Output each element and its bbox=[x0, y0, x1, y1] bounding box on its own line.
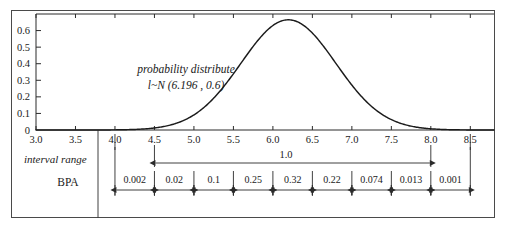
bpa-dimension-group bbox=[115, 185, 470, 195]
row-label-interval-range: interval range bbox=[24, 153, 87, 165]
x-tick-label: 7.0 bbox=[345, 134, 358, 145]
overall-interval-label: 1.0 bbox=[279, 149, 292, 160]
interval-table-group: interval range BPA 1.0 0.0020.020.10.250… bbox=[24, 130, 470, 218]
bpa-value-label: 0.002 bbox=[123, 174, 146, 185]
bpa-value-label: 0.074 bbox=[360, 174, 383, 185]
y-axis-group: 00.10.20.30.40.50.6 bbox=[17, 14, 41, 136]
x-tick-label: 8.0 bbox=[424, 134, 437, 145]
distribution-caption-line2: l~N (6.196 , 0.6) bbox=[148, 79, 225, 92]
y-tick-label: 0.1 bbox=[17, 108, 30, 119]
y-tick-label: 0.3 bbox=[17, 75, 30, 86]
segment-separator-lines bbox=[115, 134, 470, 196]
bpa-value-label: 0.013 bbox=[400, 174, 423, 185]
distribution-caption-line1: probability distribute bbox=[136, 63, 235, 76]
probability-distribution-figure: 00.10.20.30.40.50.6 3.03.54.04.55.05.56.… bbox=[0, 0, 520, 228]
x-tick-label: 6.0 bbox=[266, 134, 279, 145]
x-tick-label: 5.0 bbox=[187, 134, 200, 145]
normal-distribution-curve bbox=[36, 20, 494, 130]
x-tick-label: 6.5 bbox=[306, 134, 319, 145]
bpa-value-label: 0.25 bbox=[244, 174, 262, 185]
bpa-value-label: 0.02 bbox=[165, 174, 183, 185]
bpa-value-label: 0.001 bbox=[439, 174, 462, 185]
figure-outer-frame bbox=[12, 11, 495, 218]
x-tick-group: 3.03.54.04.55.05.56.06.57.07.58.08.5 bbox=[29, 126, 476, 145]
plot-top-border-group bbox=[36, 14, 494, 18]
row-label-bpa: BPA bbox=[57, 176, 79, 188]
y-tick-label: 0.6 bbox=[17, 25, 30, 36]
bpa-value-label: 0.1 bbox=[207, 174, 220, 185]
x-tick-label: 5.5 bbox=[227, 134, 240, 145]
x-tick-label: 3.5 bbox=[69, 134, 82, 145]
bpa-label-group: 0.0020.020.10.250.320.220.0740.0130.001 bbox=[123, 174, 461, 185]
bpa-value-label: 0.32 bbox=[284, 174, 302, 185]
x-tick-label: 3.0 bbox=[29, 134, 42, 145]
figure-container: 00.10.20.30.40.50.6 3.03.54.04.55.05.56.… bbox=[0, 0, 520, 228]
x-tick-label: 7.5 bbox=[385, 134, 398, 145]
y-tick-label: 0.4 bbox=[17, 58, 31, 69]
bpa-value-label: 0.22 bbox=[323, 174, 341, 185]
overall-interval-dimension bbox=[154, 145, 430, 167]
top-tick-marks bbox=[36, 14, 470, 18]
y-tick-group: 00.10.20.30.40.50.6 bbox=[17, 25, 41, 135]
x-tick-label: 4.5 bbox=[148, 134, 161, 145]
y-tick-label: 0.2 bbox=[17, 91, 30, 102]
y-tick-label: 0.5 bbox=[17, 42, 30, 53]
